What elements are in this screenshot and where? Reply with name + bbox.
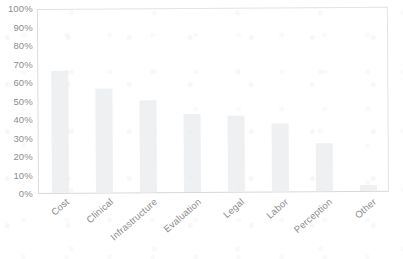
y-tick-label: 0% [19, 189, 33, 199]
y-tick-label: 100% [8, 4, 33, 14]
y-tick-label: 30% [13, 134, 33, 144]
bar-chart-figure: 0%10%20%30%40%50%60%70%80%90%100% CostCl… [0, 0, 403, 259]
bar [315, 143, 332, 191]
bar [52, 71, 70, 193]
bars-layer [38, 8, 388, 193]
bar [96, 89, 114, 193]
y-tick-label: 90% [13, 23, 33, 33]
bar [227, 116, 244, 192]
y-tick-label: 70% [13, 60, 33, 70]
bar [360, 185, 377, 191]
y-tick-label: 60% [13, 78, 33, 88]
bar [140, 100, 158, 193]
y-tick-label: 50% [13, 97, 33, 107]
y-tick-label: 10% [13, 171, 33, 181]
y-axis: 0%10%20%30%40%50%60%70%80%90%100% [0, 0, 36, 259]
y-tick-label: 80% [13, 41, 33, 51]
y-tick-label: 40% [13, 115, 33, 125]
y-tick-label: 20% [13, 152, 33, 162]
x-axis: CostClinicalInfrastructureEvaluationLega… [38, 196, 389, 259]
plot-area [37, 7, 389, 194]
bar [184, 114, 201, 192]
bar [271, 123, 288, 192]
